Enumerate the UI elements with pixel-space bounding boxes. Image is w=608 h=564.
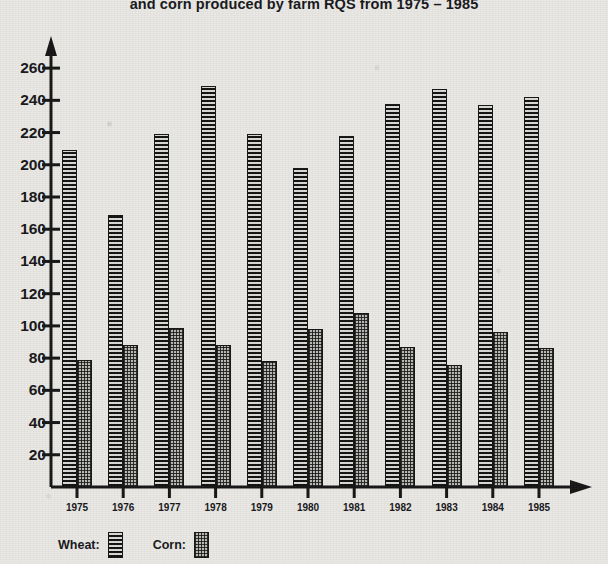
bar-wheat-1979 (247, 134, 262, 487)
bar-wheat-1985 (524, 97, 539, 487)
bar-corn-1975 (77, 360, 92, 487)
y-axis-tick-label: 40 (0, 414, 46, 432)
bar-corn-1978 (216, 345, 231, 487)
y-axis-tick-label: 220 (0, 124, 46, 142)
bar-wheat-1975 (62, 150, 77, 487)
x-axis-tick-label: 1978 (194, 502, 238, 513)
y-axis-tick-label: 140 (0, 252, 46, 270)
x-axis-tick-label: 1979 (240, 502, 284, 513)
bar-wheat-1980 (293, 168, 308, 487)
x-axis-tick-label: 1980 (286, 502, 330, 513)
y-axis-tick-label: 60 (0, 381, 46, 399)
chart-plot-area: 20406080100120140160180200220240260 1975… (0, 0, 608, 564)
bar-wheat-1978 (201, 86, 216, 487)
y-axis-tick-label: 240 (0, 91, 46, 109)
bar-corn-1980 (308, 329, 323, 487)
legend-swatch-corn (194, 532, 209, 558)
chart-legend: Wheat: Corn: (0, 532, 608, 558)
y-axis-tick-label: 120 (0, 285, 46, 303)
y-axis-tick-label: 260 (0, 59, 46, 77)
x-axis-tick-label: 1985 (517, 502, 561, 513)
legend-swatch-wheat (108, 532, 123, 558)
y-axis-tick-label: 180 (0, 188, 46, 206)
y-axis-tick-label: 200 (0, 156, 46, 174)
y-axis-tick-label: 100 (0, 317, 46, 335)
y-axis-tick-label: 80 (0, 349, 46, 367)
y-axis-tick-label: 160 (0, 220, 46, 238)
x-axis-tick-label: 1976 (101, 502, 145, 513)
bar-corn-1976 (123, 345, 138, 487)
bar-corn-1979 (262, 361, 277, 487)
legend-label-wheat: Wheat: (58, 538, 100, 552)
bar-corn-1981 (354, 313, 369, 487)
bar-corn-1977 (169, 328, 184, 488)
x-axis-tick-label: 1984 (471, 502, 515, 513)
x-axis-tick-label: 1981 (332, 502, 376, 513)
x-axis-tick-label: 1983 (425, 502, 469, 513)
bar-wheat-1981 (339, 136, 354, 487)
bar-wheat-1976 (108, 215, 123, 487)
bar-wheat-1984 (478, 105, 493, 487)
bar-wheat-1982 (385, 104, 400, 487)
legend-label-corn: Corn: (153, 538, 186, 552)
bar-wheat-1983 (432, 89, 447, 487)
bar-corn-1983 (447, 365, 462, 487)
x-axis-tick-label: 1975 (55, 502, 99, 513)
bar-corn-1984 (493, 332, 508, 487)
bar-corn-1982 (400, 347, 415, 487)
bar-corn-1985 (539, 348, 554, 487)
bar-wheat-1977 (154, 134, 169, 487)
x-axis-tick-label: 1977 (147, 502, 191, 513)
y-axis-tick-label: 20 (0, 446, 46, 464)
x-axis-tick-label: 1982 (378, 502, 422, 513)
